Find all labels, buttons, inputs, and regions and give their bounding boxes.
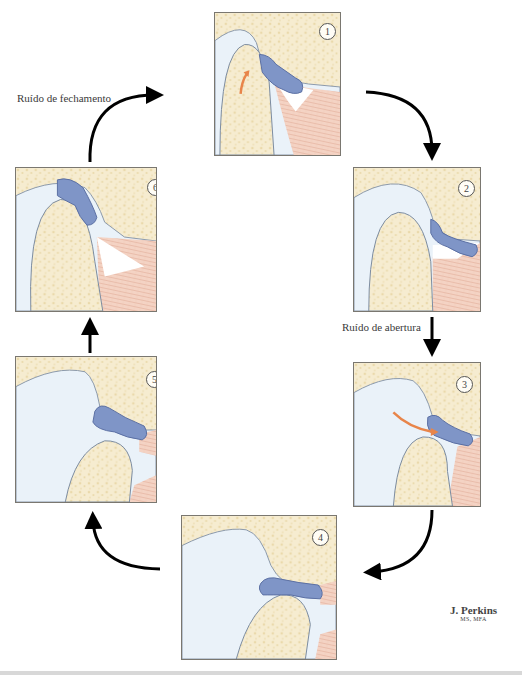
artist-signature: J. Perkins MS, MFA — [450, 604, 497, 622]
arrow-4-to-5 — [93, 520, 160, 569]
arrow-1-to-2 — [366, 92, 432, 152]
artist-degree: MS, MFA — [450, 616, 497, 622]
arrow-3-to-4 — [372, 510, 432, 572]
arrow-6-to-1 — [90, 95, 155, 162]
closing-noise-label: Ruído de fechamento — [17, 92, 111, 104]
opening-noise-label: Ruído de abertura — [342, 321, 421, 333]
bottom-edge-strip — [0, 671, 522, 675]
artist-name: J. Perkins — [450, 604, 497, 616]
